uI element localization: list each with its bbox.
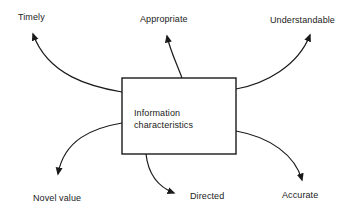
center-box-label: Information characteristics	[134, 108, 193, 131]
label-novel-value: Novel value	[33, 193, 81, 203]
label-appropriate: Appropriate	[140, 14, 188, 24]
center-box-label-line2: characteristics	[134, 120, 193, 132]
arrow-understandable	[236, 35, 310, 89]
label-timely: Timely	[18, 12, 45, 22]
arrow-novel-value	[58, 123, 122, 174]
label-directed: Directed	[190, 191, 224, 201]
label-understandable: Understandable	[270, 15, 335, 25]
label-accurate: Accurate	[282, 190, 318, 200]
arrow-appropriate	[167, 36, 182, 78]
concept-diagram: Information characteristics Timely Appro…	[0, 0, 353, 216]
arrow-accurate	[236, 131, 302, 180]
arrow-timely	[33, 34, 122, 92]
arrow-directed	[146, 154, 174, 193]
center-box-label-line1: Information	[134, 108, 193, 120]
